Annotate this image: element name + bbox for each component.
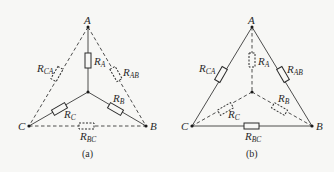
panel-b: A C B RA RAB RCA RB RC RBC (b) — [181, 14, 323, 160]
label-rc-a: RC — [63, 108, 77, 122]
node-center — [87, 91, 90, 94]
panel-a: A C B RA RAB RCA RB RC RBC (a) — [18, 14, 157, 160]
node-b — [310, 124, 313, 127]
label-rbc-b: RBC — [244, 130, 262, 144]
label-rbc-a: RBC — [79, 130, 97, 144]
resistor-rbc-a — [79, 123, 94, 129]
label-rb-b: RB — [277, 92, 290, 106]
node-b — [144, 124, 147, 127]
label-node-a: A — [83, 14, 91, 26]
node-c — [27, 124, 30, 127]
label-rca-b: RCA — [198, 62, 216, 76]
resistor-rbc-b — [244, 123, 259, 129]
resistor-ra-b — [249, 53, 255, 67]
label-rc-b: RC — [227, 108, 241, 122]
label-node-c: C — [181, 120, 189, 132]
label-node-b: B — [150, 120, 157, 132]
label-rab-b: RAB — [286, 63, 303, 77]
resistor-ra-a — [85, 53, 91, 68]
caption-a: (a) — [82, 148, 93, 160]
label-node-c: C — [18, 120, 26, 132]
label-ra-a: RA — [93, 55, 106, 69]
label-node-a: A — [247, 14, 255, 26]
caption-b: (b) — [246, 148, 258, 160]
label-rca-a: RCA — [36, 62, 54, 76]
label-node-b: B — [316, 120, 323, 132]
label-ra-b: RA — [257, 55, 270, 69]
label-rb-a: RB — [112, 92, 125, 106]
node-c — [190, 124, 193, 127]
resistor-rca-b — [215, 67, 228, 83]
star-delta-diagram: A C B RA RAB RCA RB RC RBC (a) — [0, 0, 334, 172]
label-rab-a: RAB — [122, 66, 139, 80]
resistor-rab-a — [110, 66, 122, 81]
node-center — [251, 91, 254, 94]
